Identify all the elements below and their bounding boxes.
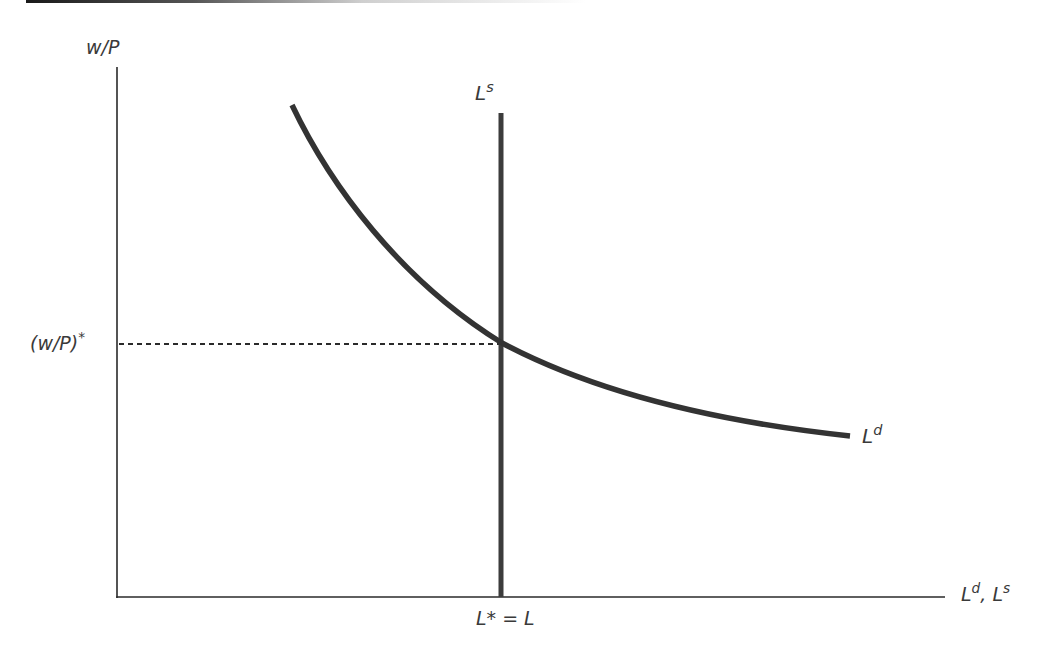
labor-market-diagram bbox=[0, 0, 1040, 652]
demand-curve-label: Ld bbox=[862, 426, 882, 446]
supply-curve-label: Ls bbox=[475, 83, 494, 103]
y-axis-label: w/P bbox=[86, 38, 119, 57]
equilibrium-quantity-label: L* = L bbox=[476, 609, 535, 628]
equilibrium-wage-label: (w/P)* bbox=[30, 334, 85, 353]
labor-demand-curve bbox=[292, 105, 850, 436]
x-axis-label: Ld, Ls bbox=[961, 585, 1010, 604]
